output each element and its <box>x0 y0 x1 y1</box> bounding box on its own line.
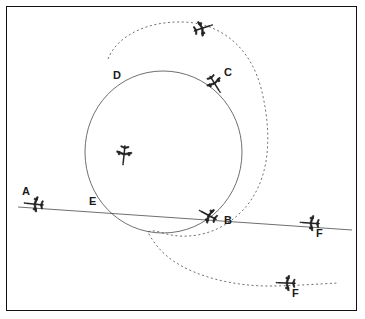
aircraft-icon-f-line <box>296 209 324 237</box>
point-label-e: E <box>89 196 97 207</box>
aircraft-icon-a <box>20 190 49 219</box>
aircraft-icon-f-dash <box>273 270 300 297</box>
paths-canvas <box>0 0 365 319</box>
flight-path-diagram: ABCDEFF <box>0 0 365 319</box>
point-label-b: B <box>224 215 232 226</box>
point-label-d: D <box>113 70 121 81</box>
flight-path-dashed-loop <box>108 22 338 286</box>
aircraft-icon-inner <box>110 141 139 170</box>
